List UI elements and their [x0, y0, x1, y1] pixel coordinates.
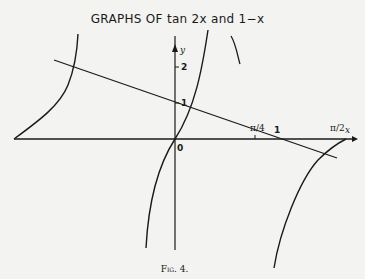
y-tick-label-1: 1 [181, 98, 187, 108]
x-axis-arrow-icon [352, 136, 358, 142]
figure-caption-text: Fig. 4. [161, 264, 189, 274]
origin-label: 0 [177, 143, 183, 153]
series-tan2x-right-branch [274, 139, 346, 268]
series-tan2x-left-branch [14, 34, 78, 139]
plot-area: y 2 1 0 π/4 1 π/2 x [0, 0, 365, 279]
x-tick-label-pi4: π/4 [250, 123, 265, 133]
figure-caption: Fig. 4. [0, 264, 365, 274]
series-one-minus-x [54, 60, 337, 158]
y-axis-label: y [179, 45, 186, 55]
x-tick-label-pi2: π/2 [330, 123, 345, 133]
series-tan2x-right-upper [231, 36, 240, 64]
y-axis-arrow-icon [172, 44, 178, 52]
x-axis-label: x [345, 125, 350, 135]
x-tick-label-1: 1 [274, 125, 280, 135]
y-tick-label-2: 2 [181, 62, 187, 72]
